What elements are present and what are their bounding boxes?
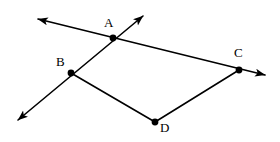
ray-left-through-A-to-C — [38, 19, 265, 75]
vertex-dot-d — [152, 119, 159, 126]
vertex-dot-a — [110, 35, 117, 42]
segment-D-to-C — [155, 70, 239, 122]
segment-layer — [18, 16, 265, 122]
geometry-figure: ABCD — [0, 0, 280, 142]
vertex-dot-b — [68, 70, 75, 77]
vertex-label-d: D — [160, 121, 169, 134]
geometry-canvas — [0, 0, 280, 142]
vertex-label-c: C — [234, 46, 243, 59]
segment-B-to-D — [71, 73, 155, 122]
vertex-label-b: B — [56, 55, 65, 68]
vertex-dot-c — [236, 67, 243, 74]
vertex-label-a: A — [104, 16, 113, 29]
